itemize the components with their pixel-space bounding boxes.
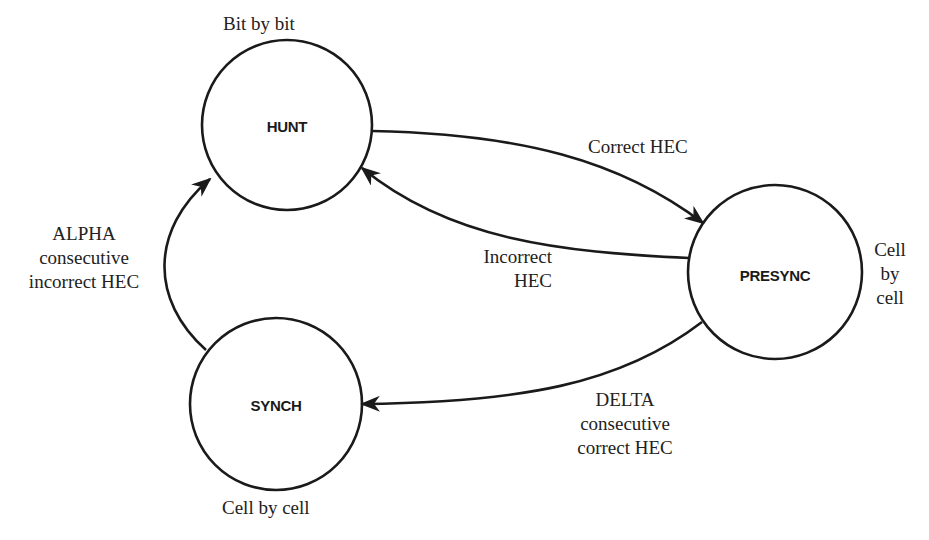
edge-label-alpha-line1: ALPHA — [14, 222, 154, 246]
state-hunt-label: HUNT — [267, 118, 307, 135]
presync-annotation: Cell by cell — [865, 238, 915, 310]
edge-label-alpha-line2: consecutive — [14, 246, 154, 270]
edge-label-alpha: ALPHA consecutive incorrect HEC — [14, 222, 154, 294]
edge-label-delta-line2: consecutive — [540, 412, 710, 436]
presync-annotation-line3: cell — [865, 286, 915, 310]
edge-label-incorrect-line2: HEC — [440, 269, 552, 293]
presync-annotation-line2: by — [865, 262, 915, 286]
state-synch-label: SYNCH — [250, 397, 301, 414]
hunt-annotation: Bit by bit — [223, 12, 295, 36]
synch-annotation: Cell by cell — [222, 496, 310, 520]
presync-annotation-line1: Cell — [865, 238, 915, 262]
edge-label-correct-hec: Correct HEC — [588, 135, 688, 159]
state-presync-label: PRESYNC — [740, 267, 810, 284]
transition-synch-to-hunt — [164, 179, 210, 350]
edge-label-incorrect-line1: Incorrect — [440, 245, 552, 269]
edge-label-alpha-line3: incorrect HEC — [14, 270, 154, 294]
edge-label-delta-line1: DELTA — [540, 388, 710, 412]
edge-label-delta: DELTA consecutive correct HEC — [540, 388, 710, 460]
edge-label-delta-line3: correct HEC — [540, 436, 710, 460]
edge-label-incorrect-hec: Incorrect HEC — [440, 245, 552, 293]
